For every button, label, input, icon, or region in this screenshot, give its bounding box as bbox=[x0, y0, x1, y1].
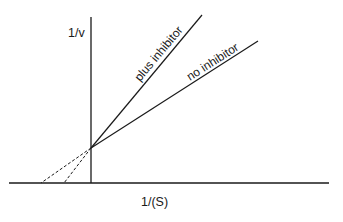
no-inhibitor-label: no inhibitor bbox=[184, 40, 241, 83]
x-axis-label: 1/(S) bbox=[141, 195, 168, 209]
plus-inhibitor-extrapolation bbox=[64, 148, 91, 183]
no-inhibitor-extrapolation bbox=[41, 148, 91, 183]
lineweaver-burk-diagram: 1/v 1/(S) plus inhibitor no inhibitor bbox=[0, 0, 343, 222]
y-axis-label: 1/v bbox=[68, 26, 85, 40]
plus-inhibitor-line bbox=[91, 15, 202, 148]
plus-inhibitor-label: plus inhibitor bbox=[132, 23, 186, 84]
